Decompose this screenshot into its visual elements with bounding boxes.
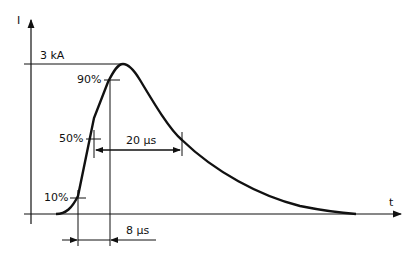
label-20us: 20 µs	[126, 135, 156, 146]
x-axis-label: t	[389, 197, 393, 208]
y-axis-label: I	[17, 15, 20, 26]
label-90: 90%	[77, 74, 101, 85]
peak-label: 3 kA	[40, 50, 64, 61]
impulse-waveform-diagram	[0, 0, 418, 257]
label-50: 50%	[59, 133, 83, 144]
label-8us: 8 µs	[126, 225, 149, 236]
label-10: 10%	[44, 192, 68, 203]
